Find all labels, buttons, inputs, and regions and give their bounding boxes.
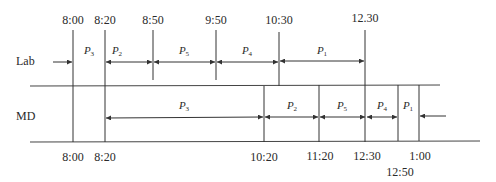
md-time-label: 10:20 [250,151,277,163]
md-segment-p5: P5 [337,99,347,115]
lab-time-label: 9:50 [205,14,226,26]
lab-time-label: 10:30 [265,14,292,26]
md-time-label: 8:00 [62,151,83,163]
lab-segment-p4: P4 [242,44,252,60]
row-label-lab: Lab [16,55,35,67]
lab-time-label: 8:00 [62,14,83,26]
row-label-md: MD [16,110,35,122]
md-segment-p4: P4 [377,99,387,115]
lab-segment-p1: P1 [317,44,327,60]
lab-segment-p3: P3 [84,44,94,60]
md-time-label: 1:00 [409,150,430,162]
lab-time-label: 8:50 [142,14,163,26]
md-time-label: 8:20 [94,151,115,163]
md-segment-p3: P3 [179,99,189,115]
md-time-label: 11:20 [307,150,334,162]
gantt-diagram: Lab MD 8:00 8:20 8:50 9:50 10:30 12.30 P… [0,0,496,182]
md-segment-p2: P2 [287,99,297,115]
lab-time-label: 12.30 [352,12,379,24]
md-time-label: 12:30 [353,150,380,162]
lab-segment-p2: P2 [112,44,122,60]
lab-time-label: 8:20 [94,14,115,26]
md-segment-p1: P1 [403,99,413,115]
lab-segment-p5: P5 [179,44,189,60]
md-time-label: 12:50 [386,166,413,178]
